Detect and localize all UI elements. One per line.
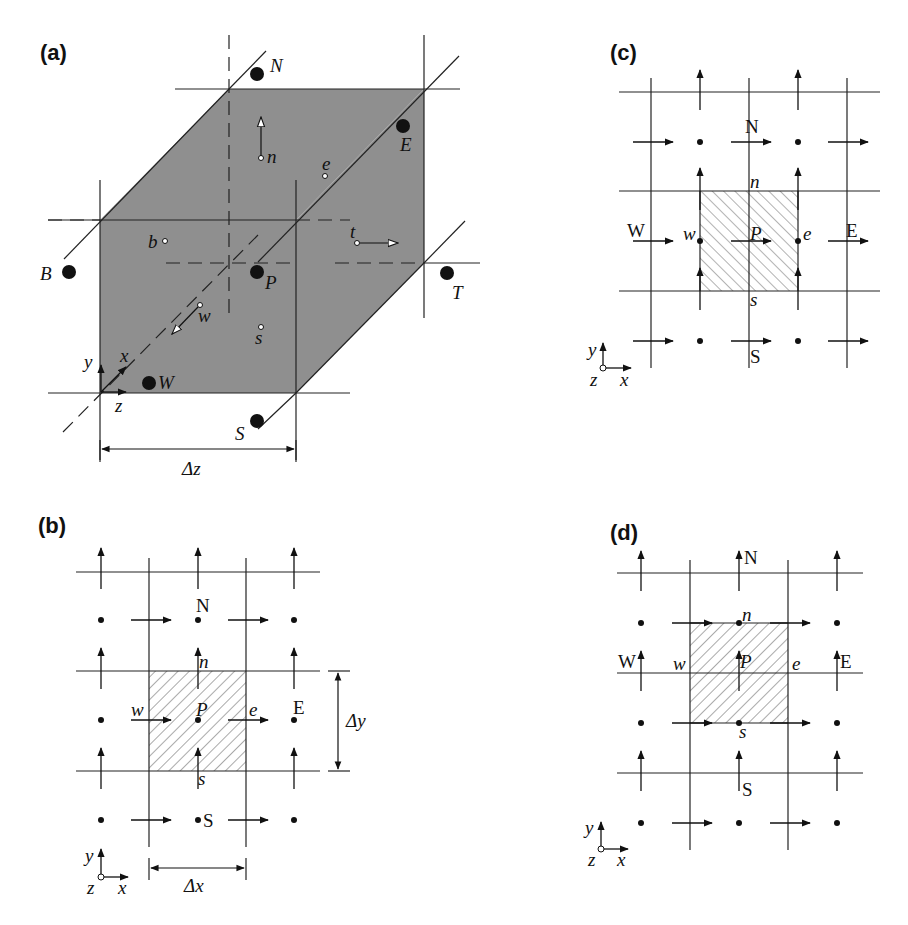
label-E-c: E (846, 220, 858, 241)
label-W-c: W (627, 220, 645, 241)
label-s-b: s (198, 768, 205, 789)
node-P (250, 265, 264, 279)
face-point-b (163, 239, 168, 244)
node-T (440, 266, 454, 280)
label-N-b: N (196, 595, 210, 616)
label-w-d: w (673, 653, 686, 674)
axis-label-x-b: x (117, 877, 127, 898)
axis-label-y: y (82, 351, 93, 372)
axis-label-y-d: y (583, 817, 594, 838)
figure-canvas: (a) N E B P T (0, 0, 908, 925)
node-N (250, 67, 264, 81)
axis-label-z-b: z (86, 877, 95, 898)
label-B: B (40, 263, 52, 284)
label-w-c: w (683, 223, 696, 244)
label-W-d: W (618, 651, 636, 672)
axes-c: y z x (586, 339, 631, 390)
panel-b: (b) (38, 513, 366, 898)
axis-label-x-d: x (616, 849, 626, 870)
panel-label-b: (b) (38, 513, 66, 538)
label-E-b: E (293, 697, 305, 718)
axis-label-z: z (114, 395, 123, 416)
label-s: s (255, 327, 262, 348)
label-S-b: S (203, 810, 214, 831)
label-e-c: e (803, 223, 811, 244)
label-S: S (235, 423, 245, 444)
label-n-d: n (742, 604, 752, 625)
panel-label-a: (a) (40, 40, 67, 65)
node-E (396, 119, 410, 133)
label-b: b (148, 231, 158, 252)
label-W: W (158, 372, 176, 393)
label-P-d: P (739, 651, 752, 672)
axis-label-z-c: z (589, 369, 598, 390)
label-n: n (267, 146, 277, 167)
panel-label-d: (d) (610, 520, 638, 545)
label-n-b: n (199, 651, 209, 672)
face-point-e (323, 174, 328, 179)
dimension-label-dz: Δz (181, 458, 201, 479)
dimension-label-dx: Δx (183, 875, 204, 896)
axes-b: y z x (83, 845, 128, 898)
axis-label-x-c: x (619, 369, 629, 390)
label-P-b: P (195, 699, 208, 720)
label-N: N (269, 55, 284, 76)
dimension-label-dy: Δy (345, 710, 366, 731)
axis-label-y-b: y (83, 845, 94, 866)
axis-label-z-d: z (587, 849, 596, 870)
panel-label-c: (c) (610, 40, 637, 65)
label-E: E (399, 134, 412, 155)
panel-c: (c) (586, 40, 880, 390)
label-N-d: N (744, 547, 758, 568)
label-N-c: N (745, 116, 759, 137)
label-s-d: s (739, 721, 746, 742)
axis-label-y-c: y (586, 339, 597, 360)
label-e-b: e (249, 699, 257, 720)
node-S (250, 414, 264, 428)
label-P: P (264, 272, 277, 293)
label-S-d: S (742, 779, 753, 800)
label-P-c: P (749, 223, 762, 244)
label-n-c: n (750, 171, 760, 192)
node-B (62, 265, 76, 279)
node-W (142, 376, 156, 390)
axes-d: y z x (583, 817, 628, 870)
face-point-n (259, 156, 264, 161)
label-S-c: S (750, 346, 761, 367)
panel-d: (d) (583, 520, 863, 870)
label-T: T (452, 282, 464, 303)
axis-label-x: x (119, 345, 129, 366)
label-w-b: w (131, 699, 144, 720)
label-e-d: e (792, 653, 800, 674)
label-e: e (322, 153, 330, 174)
label-w: w (198, 305, 211, 326)
label-t: t (350, 221, 356, 242)
panel-a: (a) N E B P T (40, 35, 480, 479)
label-s-c: s (750, 289, 757, 310)
label-E-d: E (840, 651, 852, 672)
